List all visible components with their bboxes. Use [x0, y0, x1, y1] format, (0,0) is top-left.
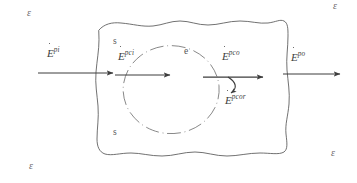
flow-base-e-pi: E: [47, 48, 54, 59]
control-volume-boundary: [96, 20, 290, 156]
region-label-s-bottom: s: [113, 128, 117, 138]
flow-label-e-pci: Epci: [118, 50, 134, 62]
region-label-e-inner: e: [184, 47, 188, 57]
flow-label-e-pcor: Epcor: [225, 94, 246, 106]
flow-base-e-pcor: E: [225, 95, 232, 106]
environment-label-top-right: ε: [333, 1, 337, 11]
flow-superscript-e-pco: pco: [229, 49, 240, 57]
flow-label-e-po: Epo: [291, 51, 305, 63]
flow-label-e-pco: Epco: [222, 50, 240, 62]
inner-region-boundary: [123, 46, 219, 134]
diagram-svg: [0, 0, 357, 183]
arrow-e-pcor: [228, 77, 235, 93]
flow-base-e-pci: E: [118, 51, 125, 62]
region-label-s-top: s: [113, 37, 117, 47]
flow-superscript-e-pci: pci: [125, 49, 134, 57]
environment-label-bottom-right: ε: [331, 148, 335, 158]
flow-superscript-e-pi: pi: [54, 46, 60, 54]
flow-base-e-pco: E: [222, 51, 229, 62]
flow-label-e-pi: Epi: [47, 47, 60, 59]
flow-superscript-e-pcor: pcor: [232, 93, 246, 101]
flow-superscript-e-po: po: [298, 50, 306, 58]
environment-label-top-left: ε: [27, 8, 31, 18]
flow-base-e-po: E: [291, 52, 298, 63]
figure-canvas: ε ε ε ε s s e Epi Epci Epco Epcor Epo: [0, 0, 357, 183]
environment-label-bottom-left: ε: [29, 161, 33, 171]
